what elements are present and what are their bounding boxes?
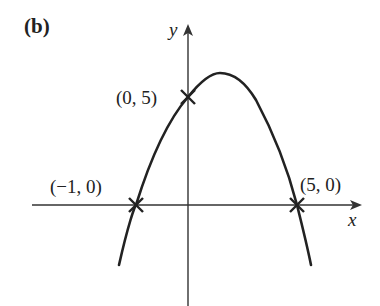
point-label-top: (0, 5) [116, 87, 157, 109]
panel-label: (b) [24, 14, 50, 38]
parabola-figure: (b) x y (−1, 0) (0, 5) (5, 0) [0, 0, 380, 306]
x-axis-label: x [347, 209, 357, 230]
point-label-right: (5, 0) [300, 174, 341, 196]
y-axis-label: y [167, 19, 178, 40]
point-label-left: (−1, 0) [50, 176, 102, 198]
